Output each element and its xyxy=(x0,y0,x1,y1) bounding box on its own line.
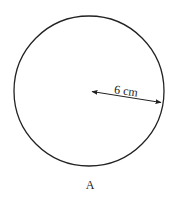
radius-label: 6 cm xyxy=(113,82,139,99)
circle-a xyxy=(14,16,164,166)
circle-label: A xyxy=(86,178,95,192)
circle-diagram: 6 cm A xyxy=(0,0,172,199)
